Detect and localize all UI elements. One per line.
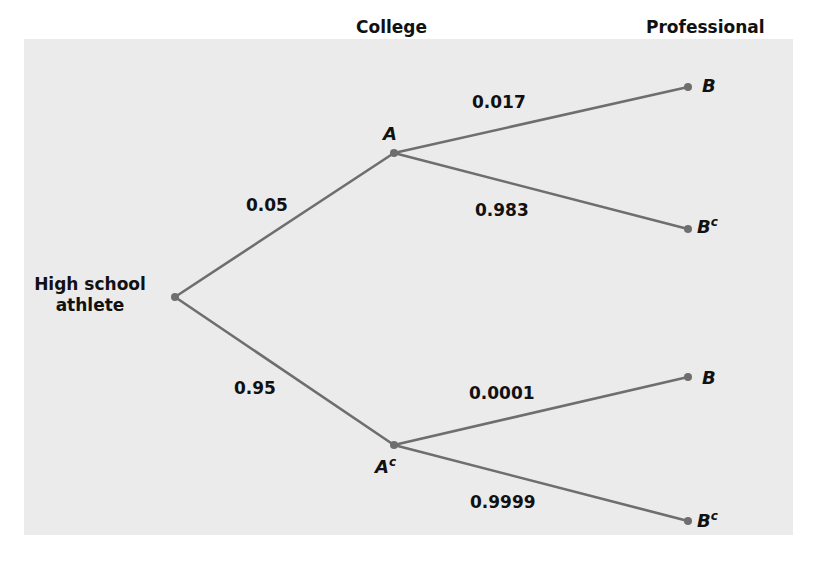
branch-A-to-B (394, 87, 688, 153)
node-root (171, 293, 179, 301)
node-A-B (684, 83, 692, 91)
node-Ac-B (684, 373, 692, 381)
stage-college-label: College (356, 17, 427, 37)
branch-root-to-A (175, 153, 394, 297)
prob-A-B: 0.017 (472, 92, 526, 112)
branch-Ac-to-B (394, 377, 688, 445)
node-Ac-label: Ac (375, 457, 396, 477)
root-label-line1: High school (25, 274, 155, 295)
node-A-label: A (383, 124, 397, 144)
branch-Ac-to-Bc (394, 445, 688, 521)
node-Ac (390, 441, 398, 449)
stage-professional-label: Professional (646, 17, 765, 37)
node-A-Bc-label: Bc (697, 217, 718, 237)
prob-Ac-Bc: 0.9999 (470, 492, 536, 512)
node-Ac-Bc-label: Bc (697, 511, 718, 531)
node-Ac-B-label: B (702, 368, 716, 388)
prob-root-A: 0.05 (246, 195, 288, 215)
node-A-B-label: B (702, 76, 716, 96)
branch-A-to-Bc (394, 153, 688, 229)
root-label: High school athlete (25, 274, 155, 316)
node-A-Bc (684, 225, 692, 233)
prob-Ac-B: 0.0001 (469, 383, 535, 403)
node-Ac-Bc (684, 517, 692, 525)
prob-A-Bc: 0.983 (475, 200, 529, 220)
root-label-line2: athlete (25, 295, 155, 316)
branch-root-to-Ac (175, 297, 394, 445)
node-A (390, 149, 398, 157)
prob-root-Ac: 0.95 (234, 378, 276, 398)
